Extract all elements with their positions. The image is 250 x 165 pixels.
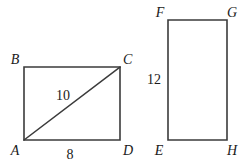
vertex-label-f: F [155,5,165,20]
diagonal-length-label: 10 [56,88,70,103]
vertex-label-c: C [123,52,133,67]
side-length-label-ad: 8 [67,147,74,162]
vertex-label-h: H [226,143,238,158]
vertex-label-d: D [122,143,133,158]
diagonal-ac [24,67,120,140]
vertex-label-e: E [154,143,164,158]
vertex-label-g: G [227,5,237,20]
rectangle-efgh-outline [168,20,227,140]
vertex-label-a: A [10,143,20,158]
geometry-figure: B C D A 10 8 F G H E 12 [0,0,250,165]
rectangle-efgh: F G H E 12 [147,5,238,158]
geometry-figure-svg: B C D A 10 8 F G H E 12 [0,0,250,165]
side-length-label-ef: 12 [147,72,161,87]
rectangle-abcd: B C D A 10 8 [10,52,133,162]
vertex-label-b: B [11,52,20,67]
